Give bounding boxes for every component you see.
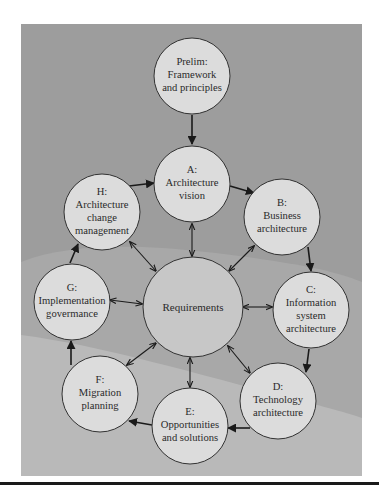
- node-g-line-3: govermance: [46, 308, 98, 319]
- node-c-information-system-architecture: C: Information system architecture: [273, 272, 349, 348]
- node-h-line-1: H:: [97, 186, 108, 197]
- node-g-implementation-governance: G: Implementation govermance: [34, 264, 110, 340]
- node-h-line-3: change: [87, 212, 117, 223]
- node-prelim: Prelim: Framework and principles: [154, 38, 230, 114]
- node-g-line-1: G:: [67, 282, 78, 293]
- node-f-migration-planning: F: Migration planning: [62, 356, 138, 432]
- node-requirements: Requirements: [143, 257, 243, 357]
- node-c-line-2: Information: [286, 297, 337, 308]
- node-d-line-3: architecture: [253, 407, 303, 418]
- node-f-line-2: Migration: [79, 387, 122, 398]
- node-c-line-1: C:: [306, 284, 316, 295]
- node-d-line-2: Technology: [253, 394, 304, 405]
- bottom-rule: [0, 482, 379, 485]
- node-f-line-3: planning: [81, 400, 119, 411]
- node-a-line-2: Architecture: [166, 177, 219, 188]
- node-a-line-1: A:: [187, 164, 198, 175]
- node-b-line-3: architecture: [257, 223, 307, 234]
- node-h-line-4: management: [75, 225, 129, 236]
- node-e-opportunities-and-solutions: E: Opportunities and solutions: [152, 388, 228, 464]
- node-h-architecture-change-management: H: Architecture change management: [64, 174, 140, 250]
- node-a-architecture-vision: A: Architecture vision: [154, 146, 230, 222]
- node-prelim-line-1: Prelim:: [176, 56, 207, 67]
- node-b-line-2: Business: [263, 210, 301, 221]
- node-f-line-1: F:: [96, 374, 105, 385]
- node-c-line-3: system: [296, 310, 326, 321]
- node-b-business-architecture: B: Business architecture: [244, 179, 320, 255]
- node-h-line-2: Architecture: [76, 199, 129, 210]
- node-prelim-line-3: and principles: [162, 82, 222, 93]
- node-b-line-1: B:: [277, 197, 287, 208]
- node-e-line-2: Opportunities: [161, 419, 219, 430]
- node-c-line-4: architecture: [286, 323, 336, 334]
- node-g-line-2: Implementation: [38, 295, 106, 306]
- node-e-line-3: and solutions: [162, 432, 218, 443]
- node-d-line-1: D:: [273, 381, 284, 392]
- node-e-line-1: E:: [185, 406, 194, 417]
- node-d-technology-architecture: D: Technology architecture: [240, 363, 316, 439]
- node-requirements-label: Requirements: [162, 301, 223, 313]
- node-prelim-line-2: Framework: [168, 69, 218, 80]
- togaf-adm-diagram: Prelim: Framework and principles A: Arch…: [0, 0, 379, 500]
- node-a-line-3: vision: [179, 190, 206, 201]
